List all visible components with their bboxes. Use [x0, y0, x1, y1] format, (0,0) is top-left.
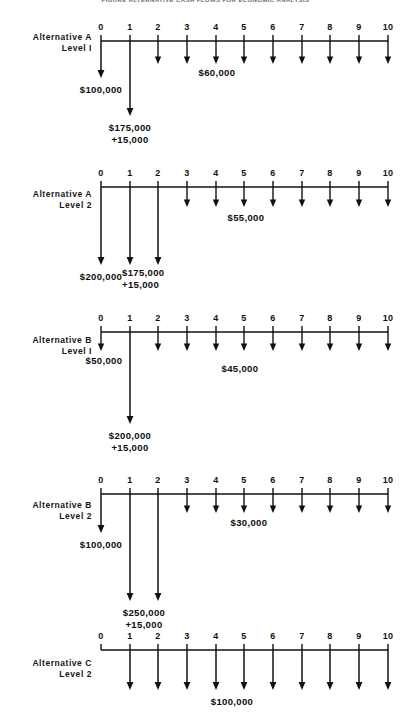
- tick-label-6: 6: [265, 169, 281, 178]
- tick-label-0: 0: [93, 632, 109, 641]
- tick-label-7: 7: [294, 23, 310, 32]
- tick-label-2: 2: [150, 314, 166, 323]
- tick-label-7: 7: [294, 314, 310, 323]
- cash-flow-diagram-alt-b-level-1: Alternative B Level I: [0, 305, 411, 455]
- tick-label-10: 10: [380, 476, 396, 485]
- tick-label-8: 8: [322, 169, 338, 178]
- timeline-axis-alt-a-level-1: [0, 0, 411, 160]
- tick-label-7: 7: [294, 169, 310, 178]
- tick-label-9: 9: [351, 23, 367, 32]
- tick-label-9: 9: [351, 169, 367, 178]
- tick-label-1: 1: [122, 314, 138, 323]
- tick-label-1: 1: [122, 169, 138, 178]
- timeline-axis-alt-b-level-2: [0, 455, 411, 620]
- tick-label-9: 9: [351, 314, 367, 323]
- annual-cost-label: $45,000: [194, 363, 286, 375]
- tick-label-3: 3: [179, 632, 195, 641]
- tick-label-0: 0: [93, 169, 109, 178]
- tick-label-4: 4: [208, 476, 224, 485]
- tick-label-3: 3: [179, 476, 195, 485]
- tick-label-10: 10: [380, 169, 396, 178]
- tick-label-5: 5: [236, 169, 252, 178]
- tick-label-2: 2: [150, 632, 166, 641]
- tick-label-10: 10: [380, 23, 396, 32]
- cash-flow-diagram-alt-c-level-2: Alternative C Level 2: [0, 620, 411, 723]
- tick-label-2: 2: [150, 169, 166, 178]
- cost-label-year-0: $100,000: [55, 539, 147, 551]
- tick-label-7: 7: [294, 476, 310, 485]
- cost-label-year-1: $200,000 +15,000: [84, 430, 176, 453]
- tick-label-9: 9: [351, 632, 367, 641]
- tick-label-0: 0: [93, 314, 109, 323]
- tick-label-6: 6: [265, 476, 281, 485]
- tick-label-0: 0: [93, 476, 109, 485]
- tick-label-8: 8: [322, 314, 338, 323]
- tick-label-6: 6: [265, 23, 281, 32]
- timeline-axis-alt-c-level-2: [0, 620, 411, 723]
- tick-label-4: 4: [208, 23, 224, 32]
- tick-label-6: 6: [265, 314, 281, 323]
- tick-label-2: 2: [150, 476, 166, 485]
- cost-label-year-1: $175,000 +15,000: [122, 267, 214, 290]
- tick-label-7: 7: [294, 632, 310, 641]
- tick-label-4: 4: [208, 169, 224, 178]
- tick-label-6: 6: [265, 632, 281, 641]
- tick-label-5: 5: [236, 476, 252, 485]
- annual-cost-label: $60,000: [171, 67, 263, 79]
- cost-label-year-1: $175,000 +15,000: [84, 122, 176, 145]
- tick-label-8: 8: [322, 632, 338, 641]
- figure-page: FIGURE ALTERNATIVE CASH FLOWS FOR ECONOM…: [0, 0, 411, 723]
- cash-flow-diagram-alt-a-level-2: Alternative A Level 2: [0, 160, 411, 305]
- tick-label-8: 8: [322, 23, 338, 32]
- annual-cost-label: $30,000: [203, 517, 295, 529]
- tick-label-1: 1: [122, 23, 138, 32]
- tick-label-8: 8: [322, 476, 338, 485]
- tick-label-5: 5: [236, 314, 252, 323]
- cash-flow-diagram-alt-b-level-2: Alternative B Level 2: [0, 455, 411, 620]
- tick-label-3: 3: [179, 23, 195, 32]
- tick-label-3: 3: [179, 169, 195, 178]
- tick-label-4: 4: [208, 314, 224, 323]
- tick-label-10: 10: [380, 632, 396, 641]
- annual-cost-label: $100,000: [186, 696, 278, 708]
- tick-label-5: 5: [236, 23, 252, 32]
- cost-label-year-0: $50,000: [58, 355, 150, 367]
- tick-label-10: 10: [380, 314, 396, 323]
- tick-label-9: 9: [351, 476, 367, 485]
- tick-label-2: 2: [150, 23, 166, 32]
- annual-cost-label: $55,000: [200, 212, 292, 224]
- timeline-axis-alt-b-level-1: [0, 305, 411, 455]
- cash-flow-diagram-alt-a-level-1: Alternative A Level I: [0, 0, 411, 160]
- tick-label-0: 0: [93, 23, 109, 32]
- tick-label-1: 1: [122, 476, 138, 485]
- tick-label-4: 4: [208, 632, 224, 641]
- tick-label-3: 3: [179, 314, 195, 323]
- tick-label-5: 5: [236, 632, 252, 641]
- cost-label-year-0: $100,000: [55, 84, 147, 96]
- tick-label-1: 1: [122, 632, 138, 641]
